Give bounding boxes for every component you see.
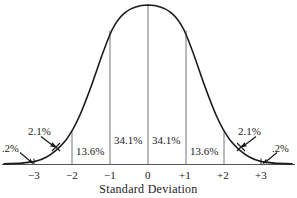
x-tick-label-pos3: +3 xyxy=(255,170,267,181)
region-label-band-right-0: 34.1% xyxy=(152,135,180,146)
x-axis-title: Standard Deviation xyxy=(0,183,297,195)
region-label-band-left-0: 34.1% xyxy=(114,135,142,146)
region-label-tail-left: .2% xyxy=(2,144,19,155)
x-tick-label-zero: 0 xyxy=(145,170,151,181)
x-tick-label-neg1: −1 xyxy=(104,170,116,181)
callout-arrow-band-left-2 xyxy=(41,137,55,148)
region-label-band-left-1: 13.6% xyxy=(76,146,104,157)
x-tick-label-pos2: +2 xyxy=(217,170,229,181)
region-label-band-right-2: 2.1% xyxy=(238,126,261,137)
normal-distribution-figure: .2% 2.1% 13.6% 34.1% 34.1% 13.6% 2.1% .2… xyxy=(0,0,297,198)
region-label-band-left-2: 2.1% xyxy=(28,126,51,137)
callout-arrow-tail-left xyxy=(20,153,33,164)
callout-cross-right xyxy=(237,143,245,151)
x-tick-label-neg3: −3 xyxy=(28,170,40,181)
region-label-band-right-1: 13.6% xyxy=(190,146,218,157)
region-label-tail-right: .2% xyxy=(272,144,289,155)
callout-arrow-band-right-2 xyxy=(242,137,256,148)
x-tick-label-pos1: +1 xyxy=(179,170,191,181)
x-tick-label-neg2: −2 xyxy=(66,170,78,181)
